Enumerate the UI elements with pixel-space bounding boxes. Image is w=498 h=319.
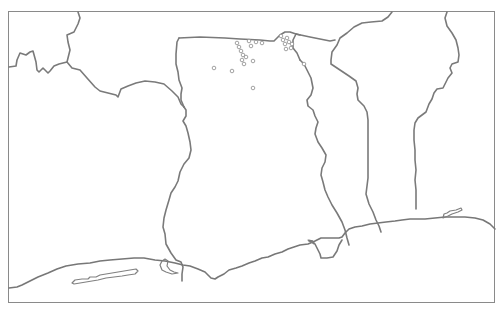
site-marker [283, 42, 287, 46]
border-burkina-cote-divoire-east [67, 62, 184, 107]
site-marker [237, 45, 241, 49]
site-marker [289, 46, 293, 50]
border-benin-nigeria [414, 12, 459, 209]
site-marker [235, 41, 239, 45]
site-marker [244, 55, 248, 59]
site-marker [302, 62, 306, 66]
site-marker [290, 42, 294, 46]
site-markers [212, 34, 306, 90]
border-ghana-west-south [163, 107, 191, 281]
border-togo-benin [331, 12, 392, 232]
volta-estuary [309, 240, 342, 258]
site-marker [239, 49, 243, 53]
lagoon-ebrie [72, 269, 138, 284]
site-marker [247, 39, 251, 43]
map-canvas [0, 0, 498, 319]
site-marker [279, 34, 283, 38]
site-marker [285, 36, 289, 40]
border-burkina-togo [296, 34, 335, 41]
map-frame [9, 12, 495, 303]
site-marker [242, 62, 246, 66]
site-marker [212, 66, 216, 70]
border-ghana-togo [300, 60, 349, 245]
coastline [9, 217, 495, 288]
site-marker [230, 69, 234, 73]
site-marker [251, 59, 255, 63]
site-marker [254, 40, 258, 44]
site-marker [251, 86, 255, 90]
site-marker [240, 58, 244, 62]
border-ghana-ne-wedge [293, 34, 300, 60]
site-marker [281, 38, 285, 42]
site-marker [249, 44, 253, 48]
site-marker [284, 47, 288, 51]
site-marker [260, 41, 264, 45]
